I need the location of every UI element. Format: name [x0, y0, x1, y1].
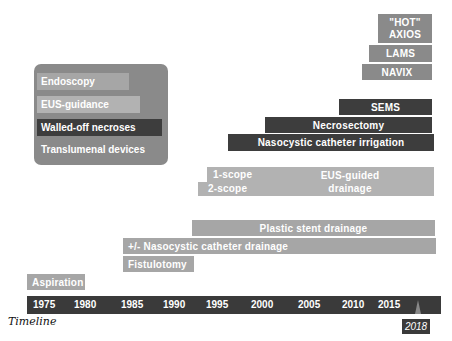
bar-plastic-stent: Plastic stent drainage — [192, 220, 435, 236]
bar-hot-axios-line2: AXIOS — [389, 29, 421, 41]
label-one-scope: 1-scope — [213, 169, 252, 180]
bar-navix: NAVIX — [362, 64, 432, 80]
year-2000: 2000 — [251, 299, 273, 310]
year-1980: 1980 — [74, 299, 96, 310]
legend-eus-guidance: EUS-guidance — [37, 96, 140, 113]
legend-box: Endoscopy EUS-guidance Walled-off necros… — [34, 64, 168, 165]
label-two-scope: 2-scope — [208, 183, 247, 194]
eus-line1: EUS-guided — [321, 169, 380, 182]
year-1990: 1990 — [163, 299, 185, 310]
marker-arrow-icon — [415, 300, 421, 314]
bar-hot-axios: "HOT" AXIOS — [378, 14, 432, 43]
bar-aspiration: Aspiration — [27, 274, 85, 290]
bar-hot-axios-line1: "HOT" — [389, 17, 421, 29]
bar-nasocystic-drainage: +/- Nasocystic catheter drainage — [123, 238, 436, 254]
legend-endoscopy: Endoscopy — [37, 73, 129, 90]
timeline-axis: 1975 1980 1985 1990 1995 2000 2005 2010 … — [27, 296, 441, 314]
year-2015: 2015 — [378, 299, 400, 310]
bar-nasocystic-irrigation: Nasocystic catheter irrigation — [228, 134, 434, 151]
label-eus-guided-drainage: EUS-guided drainage — [300, 168, 400, 196]
bar-lams: LAMS — [369, 45, 432, 62]
year-2010: 2010 — [342, 299, 364, 310]
eus-line2: drainage — [328, 182, 371, 195]
year-2005: 2005 — [298, 299, 320, 310]
marker-2018: 2018 — [402, 319, 430, 334]
year-1975: 1975 — [33, 299, 55, 310]
year-1995: 1995 — [206, 299, 228, 310]
bar-sems: SEMS — [339, 99, 432, 115]
timeline-label: Timeline — [8, 315, 56, 328]
bar-necrosectomy: Necrosectomy — [265, 117, 432, 133]
legend-walled-off-necroses: Walled-off necroses — [37, 119, 162, 136]
year-1985: 1985 — [121, 299, 143, 310]
legend-translumenal-devices: Translumenal devices — [37, 141, 162, 158]
bar-fistulotomy: Fistulotomy — [123, 256, 194, 272]
